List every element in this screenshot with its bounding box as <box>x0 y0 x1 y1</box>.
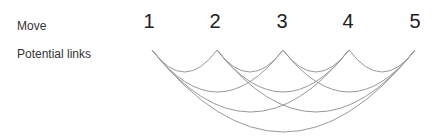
link-arc-3-5 <box>283 50 415 92</box>
link-arc-1-5 <box>152 50 415 132</box>
potential-links-arcs <box>0 0 439 138</box>
link-arc-2-4 <box>217 50 349 92</box>
link-arc-1-3 <box>152 50 283 92</box>
